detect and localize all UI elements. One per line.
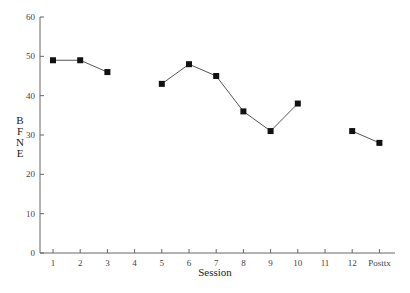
data-points — [50, 57, 382, 146]
x-tick-label: 5 — [160, 258, 165, 268]
x-tick-label: 2 — [78, 258, 83, 268]
series-line-segment — [352, 131, 379, 143]
x-tick-label: Posttx — [368, 258, 391, 268]
y-tick-label: 10 — [26, 209, 36, 219]
data-point-marker — [159, 81, 165, 87]
x-tick-label: 9 — [268, 258, 273, 268]
x-tick-label: 10 — [293, 258, 303, 268]
x-tick-label: 8 — [241, 258, 246, 268]
y-axis-title: BFNE — [16, 114, 24, 159]
x-tick-label: 6 — [187, 258, 192, 268]
data-point-marker — [376, 140, 382, 146]
y-tick-label: 20 — [26, 169, 36, 179]
data-point-marker — [77, 57, 83, 63]
y-axis-ticks: 0102030405060 — [26, 12, 44, 258]
y-tick-label: 60 — [26, 12, 36, 22]
data-point-marker — [104, 69, 110, 75]
data-point-marker — [268, 128, 274, 134]
series-line-segment — [162, 64, 298, 131]
x-tick-label: 12 — [348, 258, 357, 268]
data-point-marker — [213, 73, 219, 79]
y-tick-label: 40 — [26, 91, 36, 101]
data-point-marker — [295, 101, 301, 107]
line-chart: 0102030405060 123456789101112Posttx Sess… — [0, 0, 410, 293]
y-axis-title-letter: E — [17, 147, 24, 159]
y-tick-label: 50 — [26, 51, 36, 61]
data-point-marker — [50, 57, 56, 63]
x-tick-label: 4 — [132, 258, 137, 268]
data-point-marker — [349, 128, 355, 134]
x-tick-label: 3 — [105, 258, 110, 268]
data-point-marker — [186, 61, 192, 67]
data-point-marker — [240, 108, 246, 114]
x-tick-label: 11 — [321, 258, 330, 268]
x-axis-title: Session — [198, 266, 232, 278]
x-tick-label: 1 — [51, 258, 56, 268]
data-lines — [53, 60, 379, 143]
axes — [40, 17, 395, 253]
y-tick-label: 30 — [26, 130, 36, 140]
y-tick-label: 0 — [31, 248, 36, 258]
